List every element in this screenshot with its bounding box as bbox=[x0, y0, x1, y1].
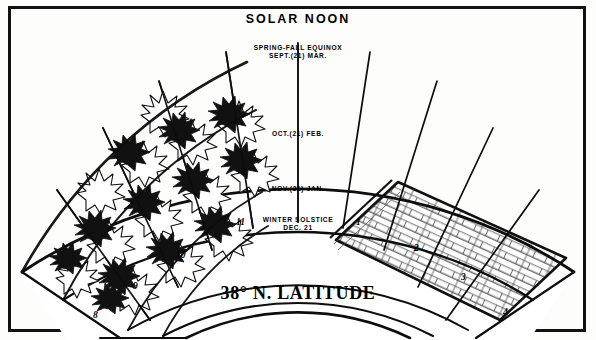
hour-label-4: 4 bbox=[503, 307, 508, 317]
hour-label-1: 1 bbox=[356, 217, 361, 227]
sun-path-diagram: SOLAR NOON SPRING-FALL EQUINOX SEPT.(21)… bbox=[0, 0, 596, 340]
label-equinox: SPRING-FALL EQUINOX SEPT.(21) MAR. bbox=[218, 44, 378, 60]
hour-label-3: 3 bbox=[461, 272, 466, 282]
label-nov-jan-line1: NOV.(21) JAN. bbox=[272, 185, 325, 192]
label-oct-feb: OCT.(21) FEB. bbox=[238, 130, 358, 138]
hour-label-11: 11 bbox=[236, 217, 245, 227]
figure-caption: 38° N. LATITUDE bbox=[0, 283, 596, 304]
label-equinox-line1: SPRING-FALL EQUINOX bbox=[254, 44, 343, 51]
label-solstice-line1: WINTER SOLSTICE bbox=[263, 216, 334, 223]
hour-label-10: 10 bbox=[176, 250, 186, 260]
hour-label-8: 8 bbox=[93, 310, 98, 320]
label-winter-solstice: WINTER SOLSTICE DEC. 21 bbox=[238, 216, 358, 232]
hour-label-2: 2 bbox=[414, 243, 419, 253]
label-oct-feb-line1: OCT.(21) FEB. bbox=[272, 130, 324, 137]
label-equinox-line2: SEPT.(21) MAR. bbox=[218, 52, 378, 60]
label-nov-jan: NOV.(21) JAN. bbox=[238, 185, 358, 193]
page-title: SOLAR NOON bbox=[0, 12, 596, 26]
label-solstice-line2: DEC. 21 bbox=[238, 224, 358, 232]
